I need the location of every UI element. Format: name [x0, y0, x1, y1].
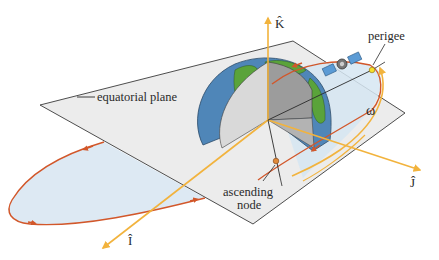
- axis-i-label: Î: [128, 233, 133, 248]
- equatorial-plane-label: equatorial plane: [97, 90, 178, 104]
- perigee-label: perigee: [368, 29, 405, 43]
- orbital-elements-diagram: equatorial plane perigee ascending node …: [0, 0, 439, 260]
- ascending-node-label-line1: ascending: [223, 185, 274, 199]
- perigee-marker: [369, 67, 375, 73]
- axis-j-label: Ĵ: [410, 175, 416, 190]
- ascending-node-label-line2: node: [237, 198, 262, 212]
- perigee-leader: [373, 44, 385, 65]
- axis-k-label: K̂: [275, 16, 285, 31]
- ascending-node-marker: [273, 158, 279, 164]
- omega-label: ω: [366, 103, 375, 118]
